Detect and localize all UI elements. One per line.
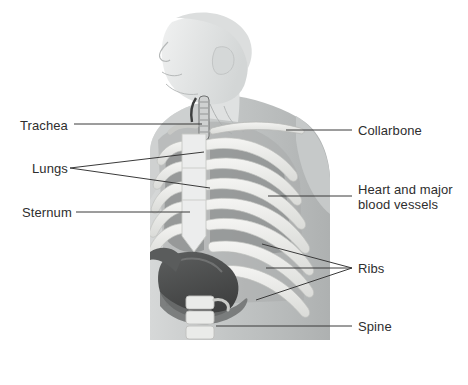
label-trachea: Trachea xyxy=(20,118,68,133)
label-lungs: Lungs xyxy=(32,161,68,176)
label-spine: Spine xyxy=(358,319,392,334)
illustration-figure: Trachea Lungs Sternum Collarbone Heart a… xyxy=(0,0,468,385)
label-sternum: Sternum xyxy=(22,205,72,220)
label-collarbone: Collarbone xyxy=(358,123,422,138)
label-heart-and-vessels: Heart and major blood vessels xyxy=(358,182,453,212)
label-ribs: Ribs xyxy=(358,261,384,276)
